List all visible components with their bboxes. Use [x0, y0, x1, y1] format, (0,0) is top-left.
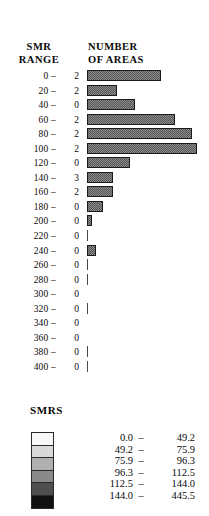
bar-container [87, 114, 175, 125]
legend-range-high: 445.5 [149, 490, 195, 502]
legend-range-label: 0.0–49.2 [60, 432, 195, 444]
header-number-line1: NUMBER [88, 40, 198, 53]
histogram-bar [87, 85, 117, 96]
legend-range-high: 49.2 [149, 432, 195, 444]
histogram-bar [87, 99, 135, 110]
smr-range-label: 260 – [0, 258, 56, 273]
area-count-label: 0 [62, 331, 79, 346]
area-count-label: 3 [62, 171, 79, 186]
bar-container [87, 186, 113, 197]
table-row: 360 –0 [0, 331, 209, 346]
bar-container [87, 70, 161, 81]
bar-container [87, 259, 88, 270]
legend-range-low: 0.0 [93, 432, 133, 444]
legend-swatch-column [31, 432, 54, 509]
bar-container [87, 361, 88, 372]
bar-container [87, 143, 197, 154]
area-count-label: 0 [62, 214, 79, 229]
bar-container [87, 85, 117, 96]
table-row: 140 –3 [0, 171, 209, 186]
bar-container [87, 157, 130, 168]
legend-swatch [32, 496, 53, 508]
smr-range-label: 0 – [0, 69, 56, 84]
smr-range-label: 20 – [0, 84, 56, 99]
legend-swatch [32, 458, 53, 471]
legend-swatch [32, 471, 53, 484]
table-row: 100 –2 [0, 142, 209, 157]
legend-range-high: 144.0 [149, 478, 195, 490]
legend-range-dash: – [133, 467, 149, 479]
table-row: 40 –0 [0, 98, 209, 113]
bar-container [87, 172, 113, 183]
histogram-bar [87, 128, 192, 139]
legend-range-high: 112.5 [149, 467, 195, 479]
table-row: 300 –0 [0, 287, 209, 302]
table-row: 120 –0 [0, 156, 209, 171]
table-row: 280 –0 [0, 273, 209, 288]
smr-range-label: 300 – [0, 287, 56, 302]
bar-container [87, 99, 135, 110]
area-count-label: 0 [62, 98, 79, 113]
bar-container [87, 245, 96, 256]
histogram-bar [87, 274, 88, 285]
legend-range-dash: – [133, 444, 149, 456]
column-headers: SMR RANGE NUMBER OF AREAS [0, 40, 209, 68]
smr-range-label: 360 – [0, 331, 56, 346]
area-count-label: 0 [62, 200, 79, 215]
smr-range-label: 80 – [0, 127, 56, 142]
smr-range-label: 400 – [0, 360, 56, 375]
smr-range-label: 200 – [0, 214, 56, 229]
table-row: 160 –2 [0, 185, 209, 200]
table-row: 380 –0 [0, 345, 209, 360]
smr-range-label: 320 – [0, 302, 56, 317]
bar-container [87, 346, 88, 357]
area-count-label: 2 [62, 113, 79, 128]
area-count-label: 0 [62, 302, 79, 317]
area-count-label: 0 [62, 258, 79, 273]
legend-range-low: 49.2 [93, 444, 133, 456]
header-smr-line2: RANGE [0, 53, 78, 66]
area-count-label: 0 [62, 244, 79, 259]
table-row: 220 –0 [0, 229, 209, 244]
table-row: 200 –0 [0, 214, 209, 229]
legend-range-high: 96.3 [149, 455, 195, 467]
legend-range-dash: – [133, 432, 149, 444]
bar-container [87, 128, 192, 139]
histogram-bar [87, 186, 113, 197]
histogram-rows: 0 –220 –240 –060 –280 –2100 –2120 –0140 … [0, 69, 209, 374]
smr-range-label: 120 – [0, 156, 56, 171]
bar-container [87, 230, 88, 241]
table-row: 400 –0 [0, 360, 209, 375]
histogram-bar [87, 172, 113, 183]
histogram-bar [87, 157, 130, 168]
smr-range-label: 380 – [0, 345, 56, 360]
table-row: 20 –2 [0, 84, 209, 99]
table-row: 320 –0 [0, 302, 209, 317]
legend-swatch [32, 433, 53, 446]
smr-range-label: 180 – [0, 200, 56, 215]
area-count-label: 0 [62, 345, 79, 360]
histogram-bar [87, 201, 103, 212]
table-row: 0 –2 [0, 69, 209, 84]
area-count-label: 2 [62, 185, 79, 200]
area-count-label: 2 [62, 142, 79, 157]
bar-container [87, 303, 88, 314]
legend-range-dash: – [133, 490, 149, 502]
legend-range-low: 75.9 [93, 455, 133, 467]
legend-range-low: 144.0 [93, 490, 133, 502]
legend-range-label: 49.2–75.9 [60, 444, 195, 456]
histogram-bar [87, 114, 175, 125]
histogram-bar [87, 303, 88, 314]
legend-range-dash: – [133, 455, 149, 467]
histogram-bar [87, 230, 88, 241]
legend-title: SMRS [30, 404, 63, 416]
smr-range-label: 280 – [0, 273, 56, 288]
area-count-label: 0 [62, 156, 79, 171]
table-row: 80 –2 [0, 127, 209, 142]
area-count-label: 0 [62, 229, 79, 244]
smr-range-label: 100 – [0, 142, 56, 157]
legend-range-low: 112.5 [93, 478, 133, 490]
legend-swatch [32, 483, 53, 496]
histogram-bar [87, 70, 161, 81]
histogram-panel: SMR RANGE NUMBER OF AREAS 0 –220 –240 –0… [0, 0, 209, 516]
